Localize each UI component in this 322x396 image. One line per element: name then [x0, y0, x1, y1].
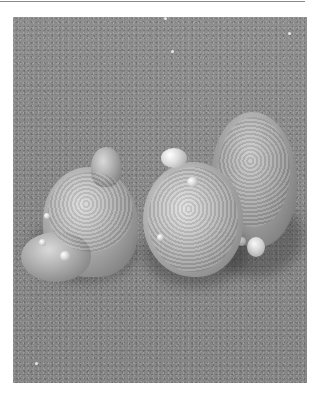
center-cell-top-bleb — [161, 148, 187, 168]
left-cell-bleb — [60, 251, 70, 261]
right-cell-bleb — [247, 237, 265, 257]
top-rule-line — [0, 1, 305, 2]
sem-micrograph — [13, 17, 307, 383]
